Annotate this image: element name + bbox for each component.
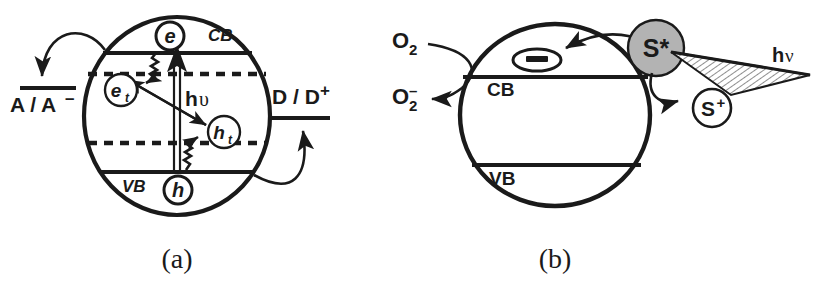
donor-couple-text: D / D xyxy=(272,85,320,108)
excitation-label-b: h ν xyxy=(772,44,794,66)
oxygen-radical-charge: – xyxy=(409,82,417,99)
sensitizer-oxidized-label: S xyxy=(701,97,715,120)
panel-a: e e t h t h CB VB xyxy=(10,17,330,274)
minus-sign-icon xyxy=(526,56,548,62)
oxygen-radical-text: O xyxy=(392,84,409,109)
injected-electron xyxy=(513,49,561,71)
excitation-h-b: h xyxy=(772,44,784,66)
sensitizer-oxidized-charge: + xyxy=(717,94,726,111)
conduction-band-label-b: CB xyxy=(487,79,514,100)
acceptor-couple-text: A / A xyxy=(10,93,56,116)
valence-band-label-a: VB xyxy=(122,177,146,196)
oxygen-neutral-label: O 2 xyxy=(392,28,417,58)
oxygen-radical-subscript: 2 xyxy=(409,97,417,114)
oxygen-neutral-subscript: 2 xyxy=(409,41,417,58)
conduction-band-label-a: CB xyxy=(208,26,233,45)
sensitizer-oxidized: S + xyxy=(693,89,731,127)
figure-svg: e e t h t h CB VB xyxy=(0,0,831,296)
excitation-label-a: h υ xyxy=(185,87,209,110)
oxygen-neutral-text: O xyxy=(392,28,409,53)
excitation-h-a: h xyxy=(185,87,198,110)
acceptor-couple-label: A / A – xyxy=(10,89,74,116)
sensitizer-oxidation-arrow xyxy=(651,73,678,102)
oxygen-radical-label: O 2 – xyxy=(392,82,417,114)
trapped-electron: e t xyxy=(105,74,137,106)
panel-b: CB VB S* h ν xyxy=(392,20,810,274)
valence-band-label-b: VB xyxy=(489,168,515,189)
valence-band-hole: h xyxy=(164,176,192,204)
conduction-band-electron: e xyxy=(156,22,184,50)
sensitizer-excited-label: S* xyxy=(643,34,670,62)
donor-couple-label: D / D + xyxy=(272,81,330,108)
panel-b-caption: (b) xyxy=(539,243,572,274)
acceptor-couple-charge: – xyxy=(65,89,74,108)
donor-couple-charge: + xyxy=(320,81,330,100)
figure-container: e e t h t h CB VB xyxy=(0,0,831,296)
valence-band-hole-label: h xyxy=(172,179,184,201)
trapped-hole-label: h xyxy=(213,122,225,143)
excitation-nu-b: ν xyxy=(785,45,794,66)
trapped-hole: h t xyxy=(208,116,240,148)
panel-a-caption: (a) xyxy=(161,243,192,274)
excitation-nu-a: υ xyxy=(199,88,209,110)
trapped-electron-label: e xyxy=(111,80,122,101)
sensitizer-excited: S* xyxy=(628,20,684,76)
conduction-band-electron-label: e xyxy=(164,25,175,47)
